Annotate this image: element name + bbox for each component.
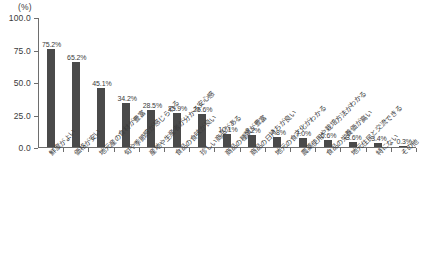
- y-axis-unit-label: (%): [18, 2, 32, 12]
- y-tick-label: 25.0: [14, 111, 31, 121]
- x-tick: [391, 148, 392, 152]
- x-tick: [139, 148, 140, 152]
- x-tick: [164, 148, 165, 152]
- bar-value-label: 28.5%: [143, 102, 162, 109]
- y-tick: 100.0: [34, 18, 38, 19]
- x-tick: [88, 148, 89, 152]
- bar-value-label: 65.2%: [67, 54, 86, 61]
- y-tick: 25.0: [34, 116, 38, 117]
- x-tick: [214, 148, 215, 152]
- y-tick-label: 50.0: [14, 78, 31, 88]
- bar: 75.2%: [47, 49, 55, 147]
- x-tick: [290, 148, 291, 152]
- x-tick: [315, 148, 316, 152]
- bar: 45.1%: [97, 88, 105, 147]
- y-axis-line: [38, 18, 39, 148]
- x-tick: [189, 148, 190, 152]
- bar-value-label: 34.2%: [117, 95, 136, 102]
- y-tick: 75.0: [34, 51, 38, 52]
- bar-value-label: 75.2%: [42, 41, 61, 48]
- y-tick: 50.0: [34, 83, 38, 84]
- x-tick: [63, 148, 64, 152]
- x-tick: [240, 148, 241, 152]
- x-tick: [366, 148, 367, 152]
- x-tick: [416, 148, 417, 152]
- y-tick-label: 100.0: [9, 13, 31, 23]
- x-tick: [114, 148, 115, 152]
- y-tick-label: 75.0: [14, 46, 31, 56]
- y-tick-label: 0.0: [19, 143, 31, 153]
- x-tick: [265, 148, 266, 152]
- bar-chart: (%) 0.025.050.075.0100.0 75.2%65.2%45.1%…: [0, 0, 426, 261]
- y-tick: 0.0: [34, 148, 38, 149]
- bar-value-label: 45.1%: [92, 80, 111, 87]
- x-tick: [340, 148, 341, 152]
